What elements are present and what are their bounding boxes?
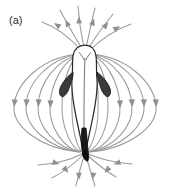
arrow-left-2 — [23, 99, 30, 107]
arrow-bottom-1 — [52, 159, 60, 166]
field-line-top-3 — [78, 6, 84, 48]
arrow-bottom-3 — [76, 172, 82, 179]
arrow-top-3 — [76, 16, 82, 23]
arrow-top-6 — [113, 24, 122, 33]
field-line-top-1 — [42, 22, 81, 50]
arrow-top-5 — [102, 20, 111, 29]
field-line-top-5 — [88, 14, 113, 49]
arrow-left-4 — [47, 100, 53, 108]
arrow-right-4 — [153, 99, 160, 107]
arrow-right-1 — [117, 100, 123, 108]
electric-field-diagram — [0, 0, 171, 189]
field-line-bottom-6 — [88, 154, 132, 164]
arrow-top-2 — [63, 18, 71, 27]
arrow-right-2 — [129, 99, 135, 107]
arrow-right-3 — [141, 99, 148, 107]
figure-panel: (a) — [0, 0, 171, 189]
arrow-bottom-6 — [113, 159, 122, 167]
field-line-bottom-1 — [38, 154, 82, 165]
arrow-left-1 — [11, 99, 18, 107]
arrow-top-4 — [89, 18, 97, 27]
arrow-left-3 — [35, 99, 41, 107]
field-line-top-4 — [86, 8, 95, 48]
